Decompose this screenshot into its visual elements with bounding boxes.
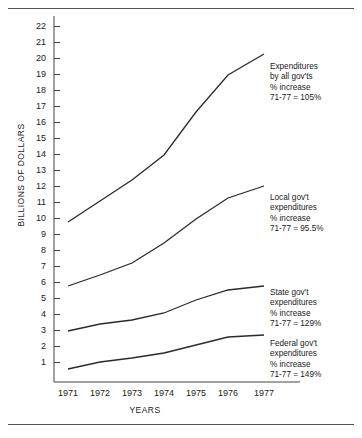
chart-figure: BILLIONS OF DOLLARS 22 21 20 19 18 17 16… [0, 0, 362, 438]
annotation-state-govt-line-4: 71-77 = 129% [270, 319, 321, 329]
series-line-all-govts [68, 54, 264, 222]
annotation-federal-govt-line-3: % increase [270, 360, 321, 370]
x-tick-label-1976: 1976 [208, 388, 248, 398]
x-tick-label-1977: 1977 [244, 388, 284, 398]
annotation-all-govts-line-3: % increase [270, 83, 321, 93]
annotation-federal-govt: Federal gov't expenditures % increase 71… [270, 339, 321, 381]
annotation-state-govt-line-2: expenditures [270, 298, 321, 308]
series-line-state-govt [68, 286, 264, 331]
annotation-all-govts-line-2: by all gov'ts [270, 72, 321, 82]
series-line-federal-govt [68, 335, 264, 369]
annotation-local-govt-line-2: expenditures [270, 203, 324, 213]
annotation-local-govt-line-3: % increase [270, 214, 324, 224]
annotation-federal-govt-line-4: 71-77 = 149% [270, 370, 321, 380]
annotation-all-govts: Expenditures by all gov'ts % increase 71… [270, 62, 321, 104]
annotation-state-govt: State gov't expenditures % increase 71-7… [270, 288, 321, 330]
annotation-local-govt-line-4: 71-77 = 95.5% [270, 224, 324, 234]
x-axis-title: YEARS [0, 405, 290, 415]
annotation-all-govts-line-1: Expenditures [270, 62, 321, 72]
annotation-federal-govt-line-2: expenditures [270, 349, 321, 359]
annotation-federal-govt-line-1: Federal gov't [270, 339, 321, 349]
annotation-state-govt-line-1: State gov't [270, 288, 321, 298]
y-tick-marks [54, 27, 60, 363]
annotation-local-govt-line-1: Local gov't [270, 193, 324, 203]
annotation-local-govt: Local gov't expenditures % increase 71-7… [270, 193, 324, 235]
annotation-all-govts-line-4: 71-77 = 105% [270, 93, 321, 103]
annotation-state-govt-line-3: % increase [270, 309, 321, 319]
series-line-local-govt [68, 186, 264, 286]
